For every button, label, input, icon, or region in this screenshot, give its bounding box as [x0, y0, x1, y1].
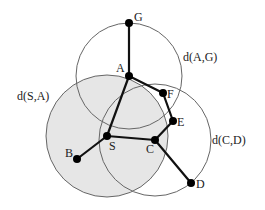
circle-label-a: d(A,G) [183, 50, 217, 64]
node-d [187, 179, 195, 187]
node-label-d: D [196, 177, 205, 191]
circle-label-s: d(S,A) [17, 89, 49, 103]
node-b [73, 155, 81, 163]
node-g [125, 19, 133, 27]
node-label-s: S [109, 139, 116, 153]
circle-label-c: d(C,D) [212, 133, 246, 147]
graph-diagram: d(S,A)d(A,G)d(C,D)GAFECSBD [0, 0, 265, 210]
node-label-c: C [146, 142, 154, 156]
node-a [125, 72, 133, 80]
node-label-f: F [167, 87, 174, 101]
node-e [169, 117, 177, 125]
diagram-stage: d(S,A)d(A,G)d(C,D)GAFECSBD [0, 0, 265, 210]
node-label-a: A [116, 61, 125, 75]
node-f [159, 89, 167, 97]
node-label-b: B [65, 146, 73, 160]
node-label-e: E [177, 115, 184, 129]
node-label-g: G [134, 10, 143, 24]
